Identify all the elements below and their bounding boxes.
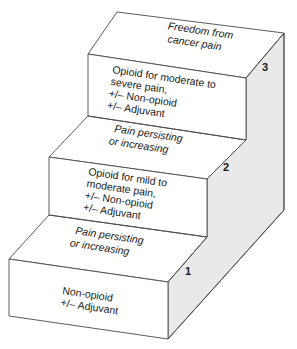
step-1-number: 1 xyxy=(185,265,191,277)
step-3-tread-label: Freedom from cancer pain xyxy=(165,19,234,54)
step-3-number: 3 xyxy=(262,61,268,73)
pain-ladder-diagram: Freedom from cancer pain Opioid for mode… xyxy=(0,0,297,349)
step-2-number: 2 xyxy=(223,161,229,173)
step-1-tread-label: Pain persisting or increasing xyxy=(69,223,145,258)
